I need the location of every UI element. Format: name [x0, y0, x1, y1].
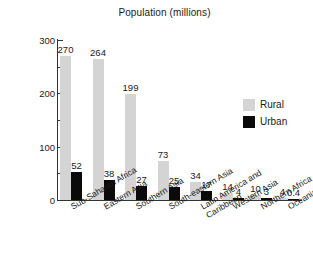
bar-rural	[93, 59, 104, 200]
bar-chart: Population (millions) 0100200300 2705226…	[0, 0, 313, 280]
chart-title: Population (millions)	[0, 7, 313, 18]
bar-value-label: 264	[86, 47, 110, 58]
legend-label: Rural	[260, 99, 284, 110]
bar-value-label: 73	[151, 149, 175, 160]
legend-swatch-rural	[243, 99, 255, 111]
legend-swatch-urban	[243, 116, 255, 128]
legend-item-urban[interactable]: Urban	[243, 113, 287, 130]
y-tick-label: 100	[39, 141, 55, 152]
bar-value-label: 52	[65, 160, 89, 171]
y-tick-major	[58, 200, 63, 201]
legend-item-rural[interactable]: Rural	[243, 96, 287, 113]
y-tick-label: 200	[39, 88, 55, 99]
legend-label: Urban	[260, 116, 287, 127]
bar-rural	[60, 56, 71, 200]
y-tick-label: 0	[50, 195, 55, 206]
bar-value-label: 199	[119, 82, 143, 93]
y-tick-major	[58, 40, 63, 41]
bar-value-label: 270	[54, 44, 78, 55]
chart-legend: RuralUrban	[243, 96, 287, 130]
